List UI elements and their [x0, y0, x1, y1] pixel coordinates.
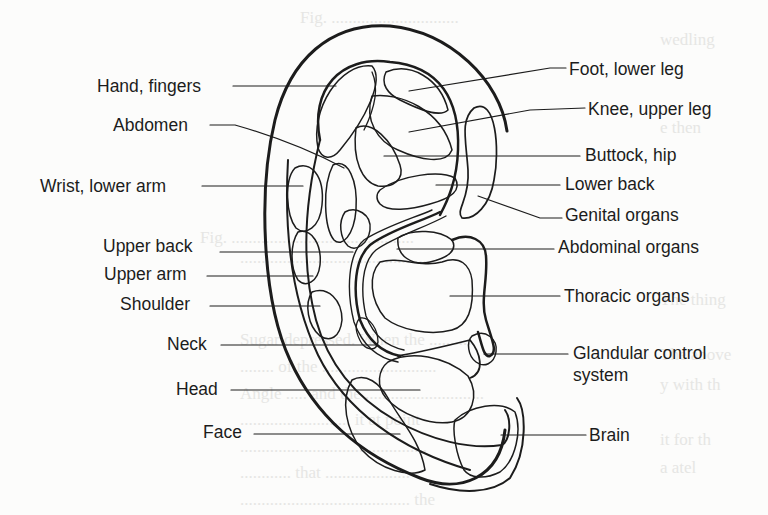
zone-head — [379, 356, 473, 423]
label-hand-fingers: Hand, fingers — [97, 76, 201, 96]
label-knee-upper-leg: Knee, upper leg — [588, 99, 712, 119]
ear-reflexology-diagram: Fig. .............................. wedl… — [0, 0, 768, 515]
label-glandular-control: Glandular control — [573, 343, 706, 363]
label-shoulder: Shoulder — [120, 294, 190, 314]
label-foot-lower-leg: Foot, lower leg — [569, 59, 684, 79]
zone-shoulder — [308, 291, 342, 339]
label-buttock-hip: Buttock, hip — [585, 145, 676, 165]
label-brain: Brain — [589, 425, 630, 445]
label-neck: Neck — [167, 334, 207, 354]
zone-abdominal-organs — [398, 231, 454, 262]
label-glandular-system: system — [573, 365, 628, 385]
label-abdominal-organs: Abdominal organs — [558, 237, 699, 257]
zone-hand — [317, 66, 376, 158]
antihelix-crus — [356, 212, 440, 356]
label-lower-back: Lower back — [565, 174, 655, 194]
zone-wrist — [288, 166, 323, 231]
zone-genital — [460, 106, 496, 218]
zone-foot — [384, 69, 448, 113]
antihelix-left-rim — [306, 140, 509, 446]
label-wrist-lower-arm: Wrist, lower arm — [40, 176, 166, 196]
label-thoracic-organs: Thoracic organs — [564, 286, 689, 306]
label-head: Head — [176, 379, 218, 399]
label-face: Face — [203, 422, 242, 442]
label-abdomen: Abdomen — [113, 115, 188, 135]
label-genital-organs: Genital organs — [565, 205, 679, 225]
label-upper-arm: Upper arm — [104, 264, 187, 284]
label-upper-back: Upper back — [103, 236, 193, 256]
inner-helix — [318, 61, 458, 215]
